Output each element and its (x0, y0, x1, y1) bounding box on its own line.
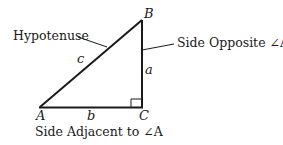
opposite-leader-line (142, 44, 174, 50)
side-label-c: c (77, 52, 84, 65)
right-angle-marker (131, 99, 141, 107)
hypotenuse-caption: Hypotenuse (13, 30, 89, 43)
vertex-label-b: B (144, 7, 154, 20)
side-label-a: a (145, 63, 153, 76)
side-label-b: b (87, 109, 95, 122)
right-triangle-diagram: B A C c a b Hypotenuse Side Opposite ∠A … (0, 0, 283, 145)
vertex-label-a: A (36, 109, 45, 122)
side-opposite-caption: Side Opposite ∠A (177, 37, 283, 50)
vertex-label-c: C (139, 109, 149, 122)
side-adjacent-caption: Side Adjacent to ∠A (35, 126, 163, 139)
